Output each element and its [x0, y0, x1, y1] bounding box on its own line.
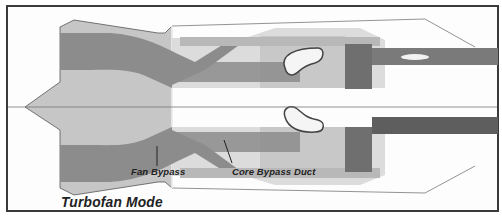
turbofan-diagram — [0, 0, 502, 217]
turbine-section — [345, 44, 372, 172]
core-bypass-duct-label: Core Bypass Duct — [232, 166, 315, 177]
afterburner-flame-icon — [401, 54, 429, 60]
diagram-title: Turbofan Mode — [61, 193, 163, 210]
exhaust-flow — [372, 48, 498, 134]
fan-bypass-label: Fan Bypass — [131, 166, 185, 177]
